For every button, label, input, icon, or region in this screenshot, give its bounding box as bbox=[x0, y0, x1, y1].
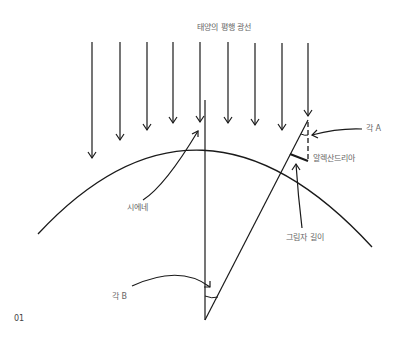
label-angle-b: 각 B bbox=[112, 293, 127, 301]
label-alexandria: 알렉산드리아 bbox=[313, 155, 355, 163]
angle-a-arc bbox=[301, 134, 308, 135]
angle-a-pointer bbox=[312, 129, 362, 135]
syene-pointer bbox=[143, 131, 198, 200]
shadow-segment bbox=[290, 154, 308, 161]
label-shadow-length: 그림자 길이 bbox=[286, 234, 324, 242]
figure-number: 01 bbox=[14, 315, 24, 323]
sun-rays bbox=[88, 42, 312, 158]
shadow-pointer bbox=[296, 164, 302, 228]
alexandria-radius-line bbox=[205, 120, 308, 320]
eratosthenes-diagram bbox=[0, 0, 405, 346]
angle-b-arc bbox=[205, 296, 218, 298]
label-angle-a: 각 A bbox=[366, 125, 381, 133]
label-syene: 시에네 bbox=[127, 204, 148, 212]
angle-b-pointer bbox=[132, 275, 210, 287]
